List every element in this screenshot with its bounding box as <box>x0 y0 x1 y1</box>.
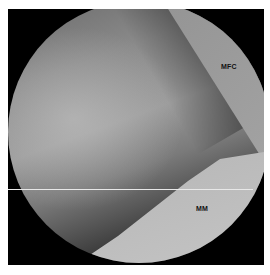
arthroscope-field-of-view <box>8 9 264 263</box>
label-mm: MM <box>196 205 208 212</box>
arthroscopy-frame <box>8 9 264 265</box>
label-mfc: MFC <box>221 63 237 70</box>
scan-line-artifact <box>8 189 253 190</box>
